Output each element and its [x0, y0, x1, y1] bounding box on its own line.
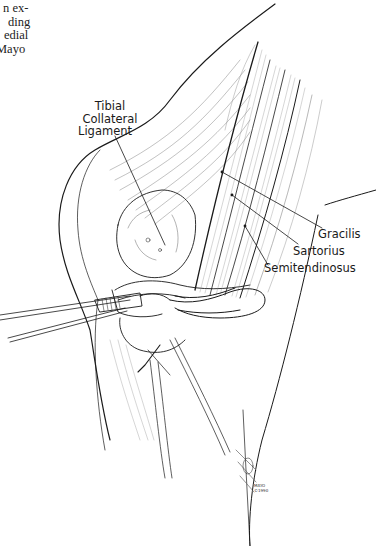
label-gracilis: Gracilis: [318, 228, 361, 241]
credit-line: ©1990: [254, 488, 268, 493]
skin-outline: [59, 4, 376, 546]
fascia-hatching: [110, 60, 250, 224]
tibia-shaft: [95, 300, 230, 478]
femoral-condyle: [117, 190, 196, 278]
tendon-loop: [170, 288, 265, 318]
label-tibial-collateral-ligament: Tibial Collateral Ligament: [70, 100, 150, 138]
label-semitendinosus: Semitendinosus: [264, 262, 356, 275]
leader-lines: [115, 136, 322, 265]
label-line: Ligament: [60, 125, 150, 138]
leader-semitendinosus: [245, 226, 268, 265]
tibial-plateau: [112, 281, 250, 353]
leader-gracilis: [222, 172, 322, 228]
label-line: Tibial: [70, 100, 150, 113]
label-sartorius: Sartorius: [293, 245, 345, 258]
artist-signature: [236, 410, 256, 546]
ligament-hatching: [110, 340, 154, 440]
illustration-credit: MAYO ©1990: [254, 483, 268, 493]
hamstring-tendons: [195, 42, 322, 298]
